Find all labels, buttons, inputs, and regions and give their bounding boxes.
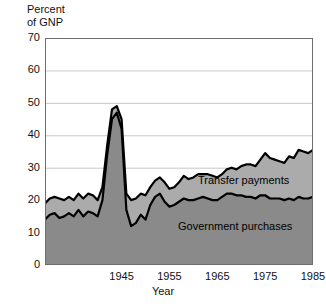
y-tick-label-30: 30 [0,161,40,173]
x-tick-label-1955: 1955 [146,270,192,282]
series-label-government-purchases: Government purchases [178,220,292,232]
x-tick-label-1985: 1985 [290,270,326,282]
y-axis-title-line1: Percent [27,3,65,15]
y-axis-title: Percentof GNP [27,3,65,28]
y-tick-label-70: 70 [0,31,40,43]
y-tick-label-50: 50 [0,96,40,108]
gnp-stacked-area-chart: Percentof GNP 010203040506070 1945195519… [0,0,326,304]
x-tick-label-1965: 1965 [194,270,240,282]
x-tick-label-1975: 1975 [242,270,288,282]
series-label-transfer-payments: Transfer payments [198,174,289,186]
x-axis-title: Year [0,285,326,298]
y-tick-label-20: 20 [0,193,40,205]
y-tick-label-60: 60 [0,63,40,75]
y-axis-title-line2: of GNP [27,16,63,28]
y-tick-label-10: 10 [0,226,40,238]
x-tick-label-1945: 1945 [99,270,145,282]
y-tick-label-40: 40 [0,128,40,140]
y-tick-label-0: 0 [0,258,40,270]
